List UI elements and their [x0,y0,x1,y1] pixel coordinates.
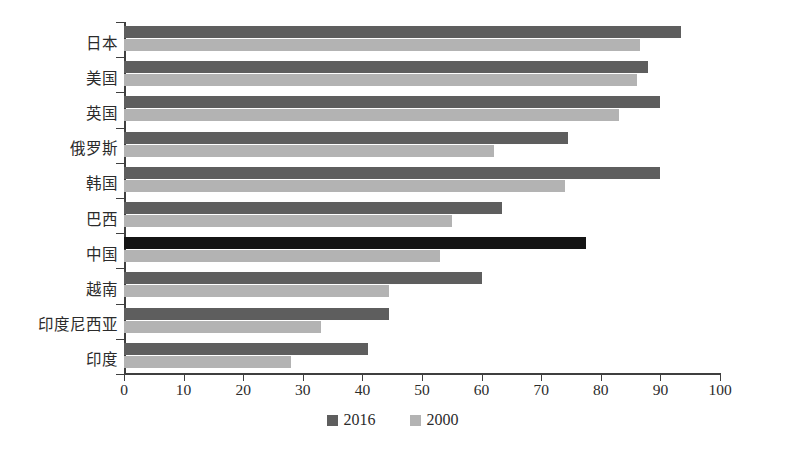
bar-2016 [124,308,389,320]
bar-2016 [124,167,660,179]
bar-2016 [124,237,586,249]
bar-2016 [124,26,681,38]
bar-group [124,198,720,233]
bar-group [124,304,720,339]
x-axis-tick-label: 0 [120,381,128,399]
bar-group [124,57,720,92]
x-axis-tick-label: 70 [533,381,549,399]
bar-2000 [124,109,619,121]
bar-2000 [124,215,452,227]
x-axis-tick-label: 100 [708,381,731,399]
bar-group [124,268,720,303]
bar-2000 [124,180,565,192]
x-axis-tick-label: 50 [414,381,430,399]
x-axis-tick-label: 80 [593,381,609,399]
category-label: 巴西 [0,207,118,229]
bar-2000 [124,321,321,333]
x-axis-tick-label: 40 [355,381,371,399]
category-label: 韩国 [0,171,118,193]
bar-2000 [124,356,291,368]
bar-chart: 日本美国英国俄罗斯韩国巴西中国越南印度尼西亚印度 010203040506070… [0,0,785,452]
bar-2016 [124,272,482,284]
bar-2016 [124,96,660,108]
legend-swatch-icon [410,415,421,426]
category-label: 日本 [0,31,118,53]
bar-2000 [124,145,494,157]
x-axis-tick-label: 30 [295,381,311,399]
chart-legend: 20162000 [0,412,785,428]
bar-group [124,233,720,268]
plot-area [124,22,720,374]
bar-2016 [124,132,568,144]
bar-group [124,339,720,374]
legend-label: 2016 [344,412,376,428]
legend-item[interactable]: 2016 [327,412,376,428]
bar-2016 [124,61,648,73]
x-axis-tick-label: 20 [235,381,251,399]
bar-2000 [124,74,637,86]
category-label: 印度 [0,347,118,369]
category-label: 英国 [0,101,118,123]
bar-2016 [124,343,368,355]
bar-2000 [124,250,440,262]
category-label: 越南 [0,277,118,299]
category-label: 印度尼西亚 [0,312,118,334]
legend-label: 2000 [427,412,459,428]
bar-2000 [124,285,389,297]
legend-swatch-icon [327,415,338,426]
legend-item[interactable]: 2000 [410,412,459,428]
bar-group [124,128,720,163]
bar-group [124,22,720,57]
x-axis-tick-label: 10 [176,381,192,399]
x-axis-tick-label: 60 [474,381,490,399]
category-label: 美国 [0,66,118,88]
x-axis-tick-label: 90 [653,381,669,399]
bar-group [124,163,720,198]
category-label: 俄罗斯 [0,136,118,158]
bar-group [124,92,720,127]
bar-2000 [124,39,640,51]
bar-2016 [124,202,502,214]
category-label: 中国 [0,242,118,264]
